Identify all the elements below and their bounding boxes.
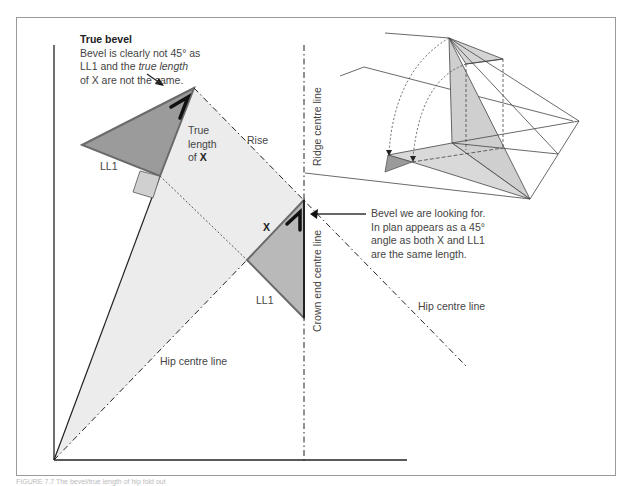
bevel-note-line4: are the same length. — [371, 248, 485, 262]
hip-centre-line-left-label: Hip centre line — [160, 355, 227, 368]
true-bevel-text-line3: of X are not the same. — [80, 74, 200, 88]
bevel-note: Bevel we are looking for. In plan appear… — [371, 207, 485, 261]
true-length-line3-a: of — [188, 151, 200, 163]
figure-caption: FIGURE 7.7 The bevel/true length of hip … — [16, 478, 166, 485]
true-bevel-text-line1: Bevel is clearly not 45° as — [80, 47, 200, 61]
true-bevel-title: True bevel — [80, 33, 200, 47]
crown-end-centre-line-label: Crown end centre line — [311, 230, 323, 332]
true-length-line1: True — [188, 124, 217, 138]
rise-label: Rise — [247, 134, 268, 147]
x-lower-label: X — [263, 221, 270, 234]
hip-centre-line-right-label: Hip centre line — [418, 300, 485, 313]
bevel-note-line2: In plan appears as a 45° — [371, 221, 485, 235]
ll1-upper-label: LL1 — [100, 160, 118, 173]
true-bevel-text-line2: LL1 and the true length — [80, 60, 200, 74]
true-length-line3-x: X — [200, 151, 207, 163]
ridge-centre-line-label: Ridge centre line — [311, 87, 323, 166]
ll1-lower-label: LL1 — [256, 294, 274, 307]
true-length-line2: length — [188, 138, 217, 152]
true-bevel-text-line2-em: true length — [138, 60, 188, 72]
bevel-note-line3: angle as both X and LL1 — [371, 234, 485, 248]
isometric-sketch — [305, 33, 579, 199]
true-bevel-text-line2-a: LL1 and the — [80, 60, 138, 72]
true-length-label: True length of X — [188, 124, 217, 165]
bevel-note-line1: Bevel we are looking for. — [371, 207, 485, 221]
true-bevel-note: True bevel Bevel is clearly not 45° as L… — [80, 33, 200, 87]
